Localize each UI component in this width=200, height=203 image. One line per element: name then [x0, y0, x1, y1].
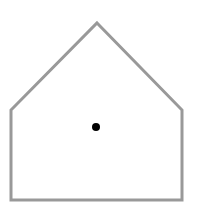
center-point — [92, 123, 100, 131]
diagram-canvas — [0, 0, 200, 203]
house-pentagon-shape — [11, 23, 182, 200]
